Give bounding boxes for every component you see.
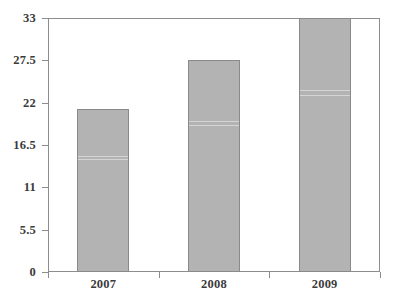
x-tick-label: 2008 (201, 277, 227, 292)
bar[interactable] (299, 18, 351, 272)
x-tick-label: 2007 (90, 277, 116, 292)
bar-chart-figure: 05.51116.52227.533 200720082009 (0, 0, 397, 304)
y-tick-label: 0 (0, 265, 36, 280)
bar-streak (189, 125, 239, 126)
bar[interactable] (188, 60, 240, 272)
bar-streak (189, 121, 239, 122)
x-tick-label: 2009 (312, 277, 338, 292)
bar[interactable] (77, 109, 129, 272)
bar-slot (48, 18, 159, 272)
y-tick-label: 22 (0, 95, 36, 110)
x-tick-mark (159, 272, 160, 278)
x-tick-mark (48, 272, 49, 278)
bar-streak (78, 159, 128, 160)
bar-slot (269, 18, 380, 272)
y-tick-label: 33 (0, 11, 36, 26)
bar-streak (300, 95, 350, 96)
x-tick-mark (380, 272, 381, 278)
bar-slot (159, 18, 270, 272)
bars-layer (48, 18, 380, 272)
y-tick-label: 11 (0, 180, 36, 195)
bar-streak (300, 90, 350, 91)
y-tick-label: 27.5 (0, 53, 36, 68)
bar-streak (78, 156, 128, 157)
y-tick-label: 16.5 (0, 138, 36, 153)
chart-area: 05.51116.52227.533 200720082009 (0, 0, 397, 304)
y-tick-label: 5.5 (0, 222, 36, 237)
x-tick-mark (269, 272, 270, 278)
